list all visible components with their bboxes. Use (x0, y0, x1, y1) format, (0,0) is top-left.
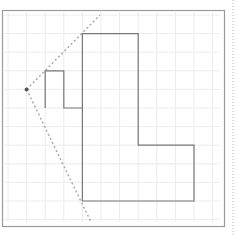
vertex-point (25, 87, 29, 91)
background-grid (4, 12, 220, 222)
geometry-diagram (0, 0, 238, 235)
diagram-frame (3, 11, 225, 227)
